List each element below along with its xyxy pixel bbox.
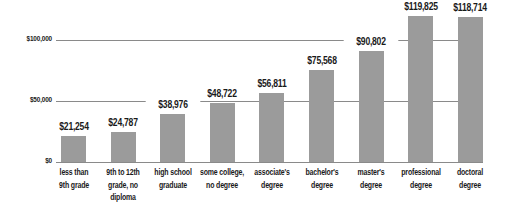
bar-value-label: $56,811 [245,77,300,89]
bar-5 [259,93,284,162]
x-axis-category-label: doctoraldegree [442,166,499,191]
y-axis-tick-label: $50,000 [10,95,52,104]
bar-value-label: $90,802 [344,35,399,47]
bar-value-label: $118,714 [443,1,498,13]
y-axis-tick-label: $0 [10,156,52,165]
bar-4 [210,103,235,162]
bar-7 [359,51,384,162]
bar-chart: $0$50,000$100,000$21,254less than9th gra… [0,0,512,207]
bar-2 [111,132,136,162]
x-axis-category-label: master'sdegree [342,166,399,191]
bar-8 [408,16,433,162]
y-axis-tick-label: $100,000 [10,34,52,43]
bar-1 [61,136,86,162]
bar-6 [309,70,334,162]
x-axis-category-label: associate'sdegree [243,166,300,191]
bar-value-label: $38,976 [145,98,200,110]
x-axis-baseline [56,162,483,163]
bar-9 [458,17,483,162]
bar-value-label: $21,254 [46,120,101,132]
bar-value-label: $48,722 [195,87,250,99]
bar-value-label: $75,568 [294,54,349,66]
bar-value-label: $119,825 [393,0,448,12]
bar-3 [160,114,185,162]
bar-value-label: $24,787 [96,116,151,128]
x-axis-category-label: 9th to 12thgrade, nodiploma [94,166,151,204]
